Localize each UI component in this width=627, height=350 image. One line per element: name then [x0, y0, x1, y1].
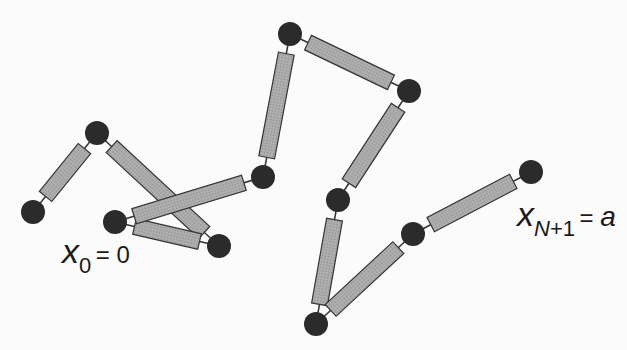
- end-subscript: N+1: [534, 216, 575, 241]
- bead-10: [519, 160, 543, 184]
- start-equation: = 0: [96, 241, 130, 268]
- spring-6: [342, 103, 405, 187]
- end-equation: = a: [579, 204, 615, 231]
- start-var: x: [62, 232, 79, 270]
- end-var: x: [517, 195, 534, 233]
- chain-svg: [0, 0, 627, 350]
- spring-5: [305, 35, 395, 89]
- start-position-label: x0 = 0: [62, 232, 130, 271]
- polymer-chain-diagram: x0 = 0 xN+1 = a: [0, 0, 627, 350]
- bead-0: [21, 200, 45, 224]
- bead-2: [207, 234, 231, 258]
- end-subscript-rest: +1: [550, 216, 575, 241]
- end-value: a: [600, 201, 616, 232]
- bead-7: [326, 188, 350, 212]
- spring-0: [39, 144, 90, 202]
- bead-9: [401, 222, 425, 246]
- bead-1: [85, 121, 109, 145]
- bead-5: [278, 22, 302, 46]
- start-subscript: 0: [79, 253, 91, 278]
- bead-8: [304, 312, 328, 336]
- spring-4: [259, 52, 294, 159]
- end-position-label: xN+1 = a: [517, 195, 616, 234]
- bead-3: [103, 210, 127, 234]
- end-equals: =: [579, 204, 593, 231]
- bead-4: [251, 165, 275, 189]
- spring-9: [427, 174, 517, 232]
- end-subscript-var: N: [534, 216, 550, 241]
- bead-6: [397, 79, 421, 103]
